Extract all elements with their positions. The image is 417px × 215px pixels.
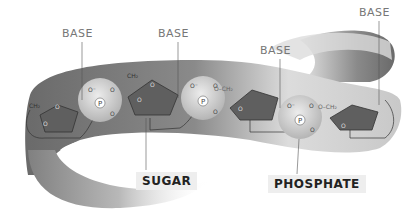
phosphate-group-3: P O⁻ O O [278,95,322,139]
svg-text:O: O [110,110,115,117]
svg-text:P: P [98,100,102,108]
svg-text:O: O [238,105,243,112]
dna-backbone-diagram: P O⁻ O O P O⁻ O O P O⁻ O O CH₂ O O [0,0,417,215]
sugar-callout: SUGAR [136,172,197,190]
svg-text:O: O [150,81,155,88]
svg-text:O: O [310,126,315,133]
base-label-1: BASE [62,27,93,40]
svg-text:O: O [43,120,48,127]
svg-text:P: P [201,98,205,106]
svg-text:O: O [309,102,314,109]
svg-text:CH₂: CH₂ [127,72,139,79]
base-label-3: BASE [260,44,291,57]
svg-text:O–CH₂: O–CH₂ [214,85,233,92]
base-label-4: BASE [359,6,390,19]
svg-text:O⁻: O⁻ [190,82,198,89]
svg-text:O: O [110,86,115,93]
svg-text:O: O [341,122,346,129]
phosphate-callout: PHOSPHATE [268,175,366,193]
svg-text:O–CH₂: O–CH₂ [318,103,337,110]
svg-text:CH₂: CH₂ [29,102,41,109]
svg-text:O: O [55,103,60,110]
phosphate-group-1: P O⁻ O O [78,78,122,122]
svg-text:O⁻: O⁻ [287,102,295,109]
svg-text:O: O [137,96,142,103]
svg-text:O⁻: O⁻ [88,86,96,93]
svg-text:P: P [298,117,302,125]
svg-text:O: O [213,108,218,115]
phosphate-group-2: P O⁻ O O [181,76,225,120]
base-label-2: BASE [158,27,189,40]
